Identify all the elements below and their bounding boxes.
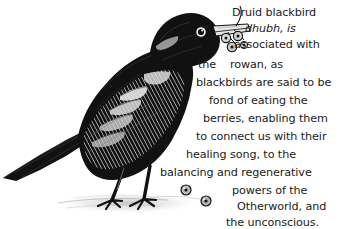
caption-line: fond of eating the — [209, 94, 307, 107]
caption-line: associated with — [234, 38, 320, 51]
caption-line: berries, enabling them — [203, 112, 328, 125]
caption-line: balancing and regenerative — [160, 166, 312, 179]
caption-line: Otherworld, and — [237, 200, 326, 213]
caption-line: healing song, to the — [186, 148, 296, 161]
caption-line: to connect us with their — [196, 130, 326, 143]
illustrated-caption-page: Druid blackbird dhubh, is associated wit… — [0, 0, 339, 229]
caption-line: blackbirds are said to be — [196, 76, 331, 89]
caption-line: powers of the — [232, 184, 307, 197]
caption-line: the unconscious. — [226, 216, 319, 229]
caption-line: the rowan, as — [198, 58, 283, 71]
caption-line: Druid blackbird — [232, 6, 316, 19]
caption-line-italic: dhubh, is — [245, 22, 296, 35]
caption-text-block: Druid blackbird dhubh, is associated wit… — [0, 0, 339, 229]
